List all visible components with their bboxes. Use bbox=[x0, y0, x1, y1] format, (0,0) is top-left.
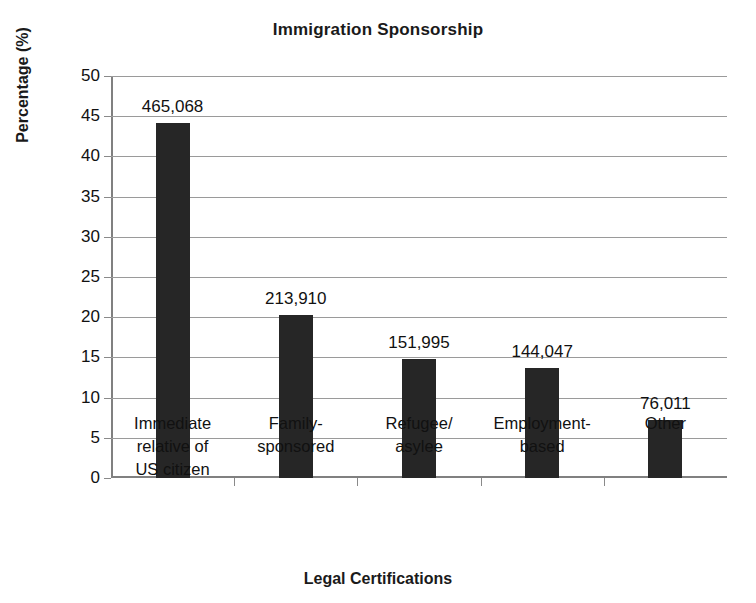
y-axis-tick-label: 25 bbox=[81, 267, 100, 287]
x-axis-category-label: Immediaterelative ofUS citizen bbox=[134, 412, 211, 481]
x-axis-category-label: Other bbox=[645, 412, 686, 435]
x-axis-category-label-line: Refugee/ bbox=[386, 412, 453, 435]
y-axis-tick-label: 0 bbox=[91, 468, 100, 488]
x-axis-category-label-line: relative of bbox=[134, 435, 211, 458]
gridline bbox=[111, 237, 727, 238]
y-axis-tick bbox=[104, 478, 111, 479]
x-axis-category-label-line: Other bbox=[645, 412, 686, 435]
x-axis-category-label-line: sponsored bbox=[257, 435, 334, 458]
x-axis-category-label-line: asylee bbox=[386, 435, 453, 458]
y-axis-tick bbox=[104, 438, 111, 439]
chart-page: Immigration Sponsorship Percentage (%) 0… bbox=[0, 0, 756, 603]
y-axis-tick-label: 40 bbox=[81, 146, 100, 166]
x-axis-category-label: Refugee/asylee bbox=[386, 412, 453, 458]
y-axis-tick bbox=[104, 398, 111, 399]
y-axis-tick-label: 35 bbox=[81, 187, 100, 207]
x-axis-category-label-line: US citizen bbox=[134, 458, 211, 481]
bar-value-label: 213,910 bbox=[265, 289, 326, 309]
y-axis-tick-label: 50 bbox=[81, 66, 100, 86]
y-axis-tick bbox=[104, 277, 111, 278]
y-axis-tick-label: 45 bbox=[81, 106, 100, 126]
category-separator-tick bbox=[234, 478, 235, 486]
chart-title: Immigration Sponsorship bbox=[0, 20, 756, 40]
x-axis-category-label-line: Immediate bbox=[134, 412, 211, 435]
y-axis-tick bbox=[104, 237, 111, 238]
y-axis-tick-label: 5 bbox=[91, 428, 100, 448]
y-axis-tick-label: 10 bbox=[81, 388, 100, 408]
x-axis-category-label: Family-sponsored bbox=[257, 412, 334, 458]
bar-value-label: 465,068 bbox=[142, 97, 203, 117]
gridline bbox=[111, 156, 727, 157]
gridline bbox=[111, 317, 727, 318]
gridline bbox=[111, 116, 727, 117]
category-separator-tick bbox=[481, 478, 482, 486]
x-axis-category-label: Employment-based bbox=[494, 412, 591, 458]
gridline bbox=[111, 197, 727, 198]
y-axis-tick bbox=[104, 116, 111, 117]
category-separator-tick bbox=[357, 478, 358, 486]
y-axis-tick bbox=[104, 156, 111, 157]
x-axis-title: Legal Certifications bbox=[0, 570, 756, 588]
y-axis-tick bbox=[104, 76, 111, 77]
x-axis-category-label-line: Family- bbox=[257, 412, 334, 435]
gridline bbox=[111, 277, 727, 278]
y-axis-tick-label: 20 bbox=[81, 307, 100, 327]
bar-value-label: 151,995 bbox=[388, 333, 449, 353]
y-axis-tick-label: 15 bbox=[81, 347, 100, 367]
x-axis-category-label-line: Employment- bbox=[494, 412, 591, 435]
category-separator-tick bbox=[604, 478, 605, 486]
y-axis-tick bbox=[104, 197, 111, 198]
bar-value-label: 144,047 bbox=[511, 342, 572, 362]
y-axis-tick-label: 30 bbox=[81, 227, 100, 247]
y-axis-title: Percentage (%) bbox=[14, 0, 32, 200]
gridline bbox=[111, 76, 727, 77]
y-axis-tick bbox=[104, 317, 111, 318]
y-axis-tick bbox=[104, 357, 111, 358]
x-axis-category-label-line: based bbox=[494, 435, 591, 458]
